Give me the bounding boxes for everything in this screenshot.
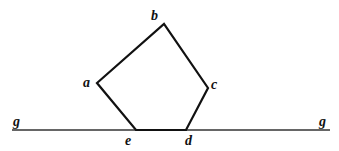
label-b: b [151,8,158,23]
label-a: a [83,75,90,90]
pentagon-abcde [97,24,208,130]
label-g-right: g [318,114,326,129]
label-d: d [185,133,193,148]
label-c: c [211,77,218,92]
label-e: e [125,133,131,148]
geometry-diagram: g g a b c d e [0,0,339,151]
label-g-left: g [12,114,20,129]
